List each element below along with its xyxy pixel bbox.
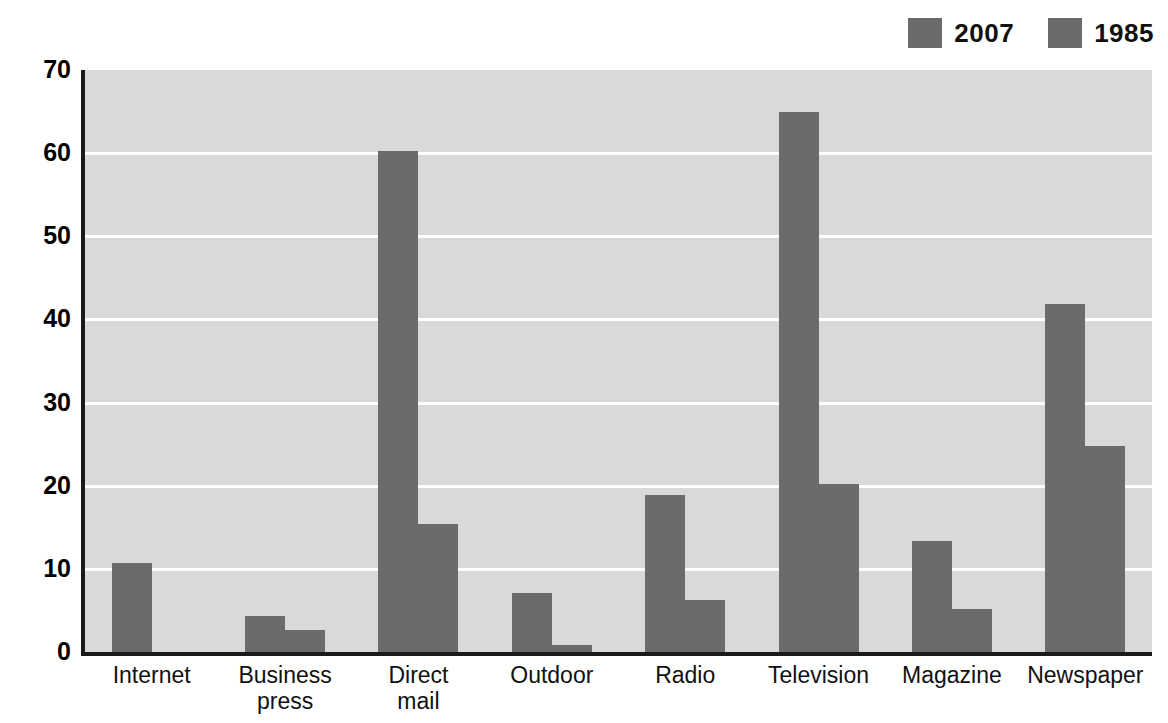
plot-area: [81, 70, 1152, 656]
bar-group-magazine: [885, 70, 1018, 652]
x-tick-label-line: Magazine: [885, 662, 1018, 688]
y-tick-label-60: 60: [1, 140, 71, 165]
x-tick-label-line: Direct: [352, 662, 485, 688]
legend-swatch-1985: [1048, 18, 1082, 48]
bar-1985-radio: [685, 600, 725, 652]
y-tick-label-70: 70: [1, 57, 71, 82]
x-tick-label-line: Internet: [85, 662, 218, 688]
x-tick-label-television: Television: [752, 662, 885, 715]
bar-2007-newspaper: [1045, 304, 1085, 652]
bar-1985-business-press: [285, 630, 325, 652]
x-tick-label-line: mail: [352, 688, 485, 714]
bar-2007-television: [779, 112, 819, 652]
bar-group-internet: [85, 70, 218, 652]
bar-1985-television: [819, 484, 859, 652]
x-tick-label-line: Business: [218, 662, 351, 688]
bar-group-television: [752, 70, 885, 652]
bar-1985-direct-mail: [418, 524, 458, 652]
bar-group-newspaper: [1019, 70, 1152, 652]
y-tick-label-30: 30: [1, 390, 71, 415]
bar-group-direct-mail: [352, 70, 485, 652]
bar-2007-business-press: [245, 616, 285, 652]
bar-2007-direct-mail: [378, 151, 418, 652]
bar-group-business-press: [218, 70, 351, 652]
bar-2007-magazine: [912, 541, 952, 652]
x-tick-label-line: Newspaper: [1019, 662, 1152, 688]
legend-label-1985: 1985: [1094, 20, 1154, 46]
legend-item-1985: 1985: [1048, 18, 1154, 48]
bar-1985-magazine: [952, 609, 992, 652]
bar-group-outdoor: [485, 70, 618, 652]
bar-2007-internet: [112, 563, 152, 652]
x-tick-label-line: Radio: [619, 662, 752, 688]
x-tick-label-line: press: [218, 688, 351, 714]
bar-1985-newspaper: [1085, 446, 1125, 652]
legend-swatch-2007: [908, 18, 942, 48]
x-tick-label-business-press: Businesspress: [218, 662, 351, 715]
bar-series-layer: [85, 70, 1152, 652]
x-tick-label-internet: Internet: [85, 662, 218, 715]
bar-2007-radio: [645, 495, 685, 652]
y-tick-label-0: 0: [1, 639, 71, 664]
legend-item-2007: 2007: [908, 18, 1014, 48]
chart-legend: 2007 1985: [908, 18, 1154, 48]
x-tick-label-radio: Radio: [619, 662, 752, 715]
y-tick-label-20: 20: [1, 473, 71, 498]
y-tick-label-50: 50: [1, 223, 71, 248]
x-tick-label-magazine: Magazine: [885, 662, 1018, 715]
y-tick-label-10: 10: [1, 556, 71, 581]
x-tick-label-newspaper: Newspaper: [1019, 662, 1152, 715]
legend-label-2007: 2007: [954, 20, 1014, 46]
x-axis-tick-labels: InternetBusinesspressDirectmailOutdoorRa…: [85, 662, 1152, 715]
bar-1985-outdoor: [552, 645, 592, 652]
y-tick-label-40: 40: [1, 306, 71, 331]
x-tick-label-line: Outdoor: [485, 662, 618, 688]
x-tick-label-outdoor: Outdoor: [485, 662, 618, 715]
bar-2007-outdoor: [512, 593, 552, 652]
x-tick-label-direct-mail: Directmail: [352, 662, 485, 715]
x-tick-label-line: Television: [752, 662, 885, 688]
bar-group-radio: [619, 70, 752, 652]
advertising-spending-bar-chart: 2007 1985 Dollars (in billions) 70605040…: [0, 0, 1168, 723]
